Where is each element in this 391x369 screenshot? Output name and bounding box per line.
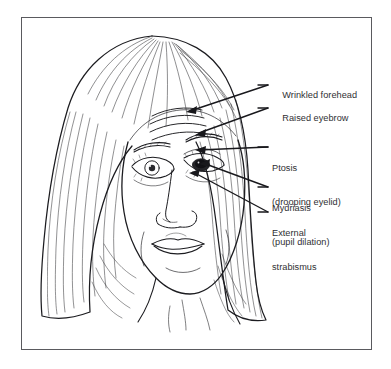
leader-mydriasis: [203, 163, 268, 187]
philtrum: [166, 233, 186, 236]
leader-raised-eyebrow: [199, 108, 268, 133]
mouth: [152, 239, 204, 254]
hair-strands-right: [200, 100, 262, 318]
leader-wrinkled-forehead: [190, 85, 268, 111]
label-external-strabismus-line2: strabismus: [272, 262, 317, 273]
undereye-crease-normal: [134, 180, 168, 186]
neck-lines: [169, 298, 211, 332]
label-raised-eyebrow-line1: Raised eyebrow: [282, 113, 348, 123]
chin-jaw: [141, 230, 229, 273]
eye-normal-lashes: [133, 153, 146, 181]
label-external-strabismus: External strabismus: [272, 206, 317, 296]
label-ptosis-line1: Ptosis: [272, 163, 341, 174]
label-raised-eyebrow: Raised eyebrow: [272, 102, 348, 136]
label-wrinkled-forehead-line1: Wrinkled forehead: [282, 90, 357, 100]
leader-stubs: [258, 85, 268, 212]
neck: [138, 274, 240, 324]
face-outline: [122, 140, 245, 294]
label-external-strabismus-line1: External: [272, 228, 317, 239]
figure-oculomotor-palsy: Wrinkled forehead Raised eyebrow Ptosis …: [0, 0, 391, 369]
